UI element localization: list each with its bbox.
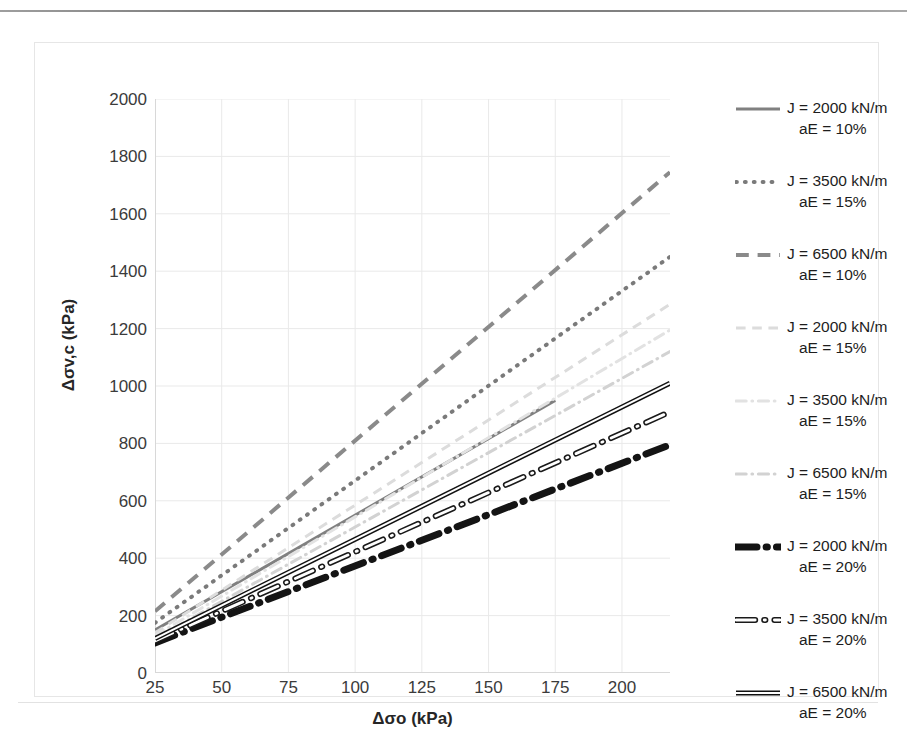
legend-swatch-icon bbox=[735, 687, 781, 699]
legend-swatch-icon bbox=[735, 541, 781, 553]
plot-area bbox=[155, 99, 670, 673]
y-tick-label: 1000 bbox=[89, 378, 147, 395]
y-tick-label: 400 bbox=[89, 550, 147, 567]
series-line bbox=[155, 412, 670, 641]
legend-entry[interactable]: J = 3500 kN/maE = 15% bbox=[735, 389, 905, 443]
legend-swatch-icon bbox=[735, 395, 781, 407]
legend-label: J = 2000 kN/maE = 15% bbox=[787, 316, 907, 358]
plot-svg bbox=[155, 99, 670, 673]
legend-label-line2: aE = 20% bbox=[787, 556, 907, 577]
series-line bbox=[155, 445, 670, 643]
x-tick-label: 175 bbox=[541, 679, 569, 696]
legend-entry[interactable]: J = 2000 kN/maE = 10% bbox=[735, 97, 905, 151]
x-tick-label: 200 bbox=[608, 679, 636, 696]
legend-label: J = 2000 kN/maE = 20% bbox=[787, 535, 907, 577]
legend-label-line2: aE = 15% bbox=[787, 410, 907, 431]
legend-label-line2: aE = 15% bbox=[787, 191, 907, 212]
legend-label: J = 6500 kN/maE = 10% bbox=[787, 243, 907, 285]
y-axis-title: Δσv,c (kPa) bbox=[59, 245, 79, 445]
legend-label-line1: J = 3500 kN/m bbox=[787, 610, 887, 627]
legend-label-line1: J = 2000 kN/m bbox=[787, 318, 887, 335]
legend-label: J = 3500 kN/maE = 20% bbox=[787, 608, 907, 650]
legend-entry[interactable]: J = 6500 kN/maE = 15% bbox=[735, 462, 905, 516]
legend-label-line2: aE = 10% bbox=[787, 264, 907, 285]
legend-swatch-icon bbox=[735, 322, 781, 334]
legend-label: J = 3500 kN/maE = 15% bbox=[787, 389, 907, 431]
legend-swatch-icon bbox=[735, 468, 781, 480]
legend-label: J = 6500 kN/maE = 15% bbox=[787, 462, 907, 504]
y-axis-tick-labels: 2000180016001400120010008006004002000 bbox=[83, 99, 147, 673]
y-tick-label: 0 bbox=[89, 665, 147, 682]
legend-entry[interactable]: J = 3500 kN/maE = 15% bbox=[735, 170, 905, 224]
x-tick-label: 125 bbox=[408, 679, 436, 696]
legend-label-line1: J = 6500 kN/m bbox=[787, 245, 887, 262]
x-tick-label: 75 bbox=[279, 679, 298, 696]
y-tick-label: 1400 bbox=[89, 263, 147, 280]
legend-label-line1: J = 6500 kN/m bbox=[787, 464, 887, 481]
chart-frame: 2000180016001400120010008006004002000 25… bbox=[34, 42, 879, 697]
series-line bbox=[155, 352, 670, 639]
legend-label-line1: J = 2000 kN/m bbox=[787, 99, 887, 116]
scan-artifact-line-top bbox=[0, 10, 907, 12]
x-tick-label: 50 bbox=[212, 679, 231, 696]
legend-label-line1: J = 3500 kN/m bbox=[787, 391, 887, 408]
legend-entry[interactable]: J = 2000 kN/maE = 20% bbox=[735, 535, 905, 589]
legend-entry[interactable]: J = 6500 kN/maE = 10% bbox=[735, 243, 905, 297]
legend-label: J = 3500 kN/maE = 15% bbox=[787, 170, 907, 212]
legend-label: J = 6500 kN/maE = 20% bbox=[787, 681, 907, 723]
legend-label-line1: J = 2000 kN/m bbox=[787, 537, 887, 554]
y-tick-label: 1800 bbox=[89, 148, 147, 165]
legend-label-line2: aE = 10% bbox=[787, 118, 907, 139]
x-axis-tick-labels: 255075100125150175200 bbox=[155, 679, 670, 703]
legend-label-line2: aE = 20% bbox=[787, 629, 907, 650]
series-line bbox=[155, 304, 670, 633]
legend-swatch-icon bbox=[735, 614, 781, 626]
legend-swatch-icon bbox=[735, 176, 781, 188]
y-tick-label: 1200 bbox=[89, 320, 147, 337]
y-tick-label: 200 bbox=[89, 607, 147, 624]
legend-entry[interactable]: J = 2000 kN/maE = 15% bbox=[735, 316, 905, 370]
legend-label-line2: aE = 15% bbox=[787, 337, 907, 358]
y-tick-label: 800 bbox=[89, 435, 147, 452]
legend-label-line1: J = 6500 kN/m bbox=[787, 683, 887, 700]
x-tick-label: 100 bbox=[341, 679, 369, 696]
legend-label: J = 2000 kN/maE = 10% bbox=[787, 97, 907, 139]
legend-swatch-icon bbox=[735, 103, 781, 115]
x-tick-label: 150 bbox=[474, 679, 502, 696]
y-tick-label: 2000 bbox=[89, 91, 147, 108]
legend-entry[interactable]: J = 3500 kN/maE = 20% bbox=[735, 608, 905, 662]
series-line bbox=[155, 330, 670, 636]
legend-label-line2: aE = 20% bbox=[787, 702, 907, 723]
legend-swatch-icon bbox=[735, 249, 781, 261]
legend-label-line2: aE = 15% bbox=[787, 483, 907, 504]
x-axis-title: Δσo (kPa) bbox=[155, 709, 670, 729]
legend-label-line1: J = 3500 kN/m bbox=[787, 172, 887, 189]
y-tick-label: 600 bbox=[89, 492, 147, 509]
x-tick-label: 25 bbox=[146, 679, 165, 696]
y-tick-label: 1600 bbox=[89, 205, 147, 222]
legend-entry[interactable]: J = 6500 kN/maE = 20% bbox=[735, 681, 905, 729]
series-line bbox=[155, 383, 670, 638]
series-line bbox=[155, 257, 670, 623]
